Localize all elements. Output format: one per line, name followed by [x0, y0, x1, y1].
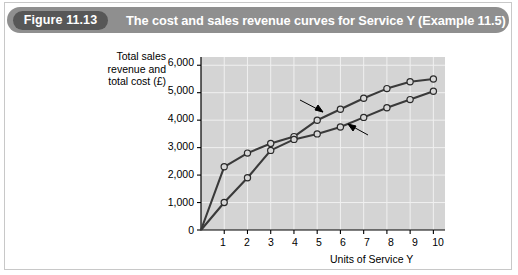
annotation-line-1: Total cost	[370, 130, 415, 142]
chart-container	[7, 36, 509, 268]
y-tick-label: 6,000	[148, 57, 194, 67]
x-tick-label: 4	[285, 237, 305, 247]
x-tick-label: 10	[428, 237, 448, 247]
y-axis-title: Total sales revenue and total cost (£)	[88, 50, 166, 88]
figure-header-bar: Figure 11.13 The cost and sales revenue …	[7, 7, 509, 33]
x-tick-label: 8	[381, 237, 401, 247]
y-tick-label: 0	[148, 225, 194, 235]
figure-number-badge: Figure 11.13	[13, 11, 108, 30]
figure-title: The cost and sales revenue curves for Se…	[126, 13, 506, 28]
figure-screenshot: Figure 11.13 The cost and sales revenue …	[0, 0, 518, 275]
x-tick-label: 5	[309, 237, 329, 247]
y-tick-label: 5,000	[148, 85, 194, 95]
annotation-total-cost: Total cost	[370, 130, 415, 143]
annotation-line-1: Total sales	[255, 84, 305, 96]
y-tick-label: 3,000	[148, 141, 194, 151]
annotation-line-2: revenue	[261, 97, 299, 109]
x-tick-label: 6	[333, 237, 353, 247]
x-axis-title: Units of Service Y	[330, 253, 413, 265]
x-tick-label: 7	[357, 237, 377, 247]
y-tick-label: 4,000	[148, 113, 194, 123]
y-tick-label: 2,000	[148, 169, 194, 179]
y-tick-label: 1,000	[148, 197, 194, 207]
x-tick-label: 3	[261, 237, 281, 247]
annotation-total-sales-revenue: Total sales revenue	[244, 84, 316, 109]
x-tick-label: 1	[213, 237, 233, 247]
x-tick-label: 2	[237, 237, 257, 247]
x-tick-label: 9	[405, 237, 425, 247]
